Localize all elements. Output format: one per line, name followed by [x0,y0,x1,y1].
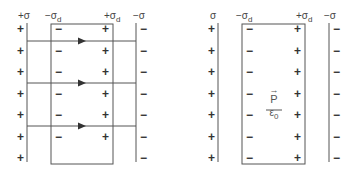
charge-sign: − [140,23,147,35]
charge-sign: − [140,45,147,57]
charge-sign: + [17,152,24,164]
charge-sign: + [17,131,24,143]
charge-sign: − [140,88,147,100]
charge-sign: − [333,66,340,78]
charge-sign: − [55,66,62,78]
charge-sign: − [140,152,147,164]
charge-sign: − [333,152,340,164]
charge-sign: + [294,88,301,100]
charge-sign: − [333,45,340,57]
charge-sign: + [17,66,24,78]
charge-sign: + [17,45,24,57]
charge-sign: + [294,109,301,121]
charge-sign: + [17,109,24,121]
charge-sign: + [294,152,301,164]
charge-sign: − [246,23,253,35]
charge-sign: − [140,66,147,78]
charge-sign: − [246,109,253,121]
charge-sign: + [294,66,301,78]
label-sigma: σ [210,10,216,21]
charge-sign: + [208,88,215,100]
charge-sign: + [102,88,109,100]
charge-sign: − [140,109,147,121]
polarization-fraction: → P ε0 [264,87,284,123]
charge-sign: + [102,109,109,121]
charge-sign: + [17,88,24,100]
charge-sign: + [102,45,109,57]
charge-sign: + [208,66,215,78]
charge-sign: − [333,88,340,100]
charge-sign: − [55,88,62,100]
label-plus-sigma: +σ [18,10,30,21]
charge-sign: + [294,45,301,57]
charge-sign: − [246,152,253,164]
charge-sign: + [17,23,24,35]
charge-sign: + [294,131,301,143]
charge-sign: + [208,23,215,35]
charge-sign: + [208,152,215,164]
charge-sign: + [102,66,109,78]
charge-sign: − [55,45,62,57]
charge-sign: − [140,131,147,143]
charge-sign: + [208,45,215,57]
charge-sign: − [55,109,62,121]
label-minus-sigma: −σ [133,10,145,21]
charge-sign: − [55,131,62,143]
charge-sign: − [246,66,253,78]
charge-sign: − [246,45,253,57]
charge-sign: − [333,109,340,121]
charge-sign: − [333,131,340,143]
charge-sign: − [333,23,340,35]
charge-sign: − [246,88,253,100]
label-minus-sigma: −σ [324,10,336,21]
charge-sign: − [55,23,62,35]
charge-sign: + [102,131,109,143]
charge-sign: + [102,23,109,35]
charge-sign: + [208,109,215,121]
charge-sign: − [246,131,253,143]
charge-sign: + [294,23,301,35]
charge-sign: + [208,131,215,143]
arrow-icon [78,38,86,130]
